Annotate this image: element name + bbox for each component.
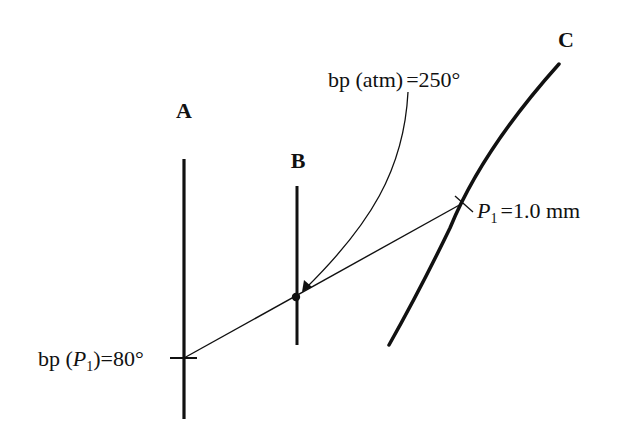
pointer-arrow-curve (305, 92, 408, 289)
bp-atm-label: bp (atm)=250° (328, 67, 460, 92)
scale-b: B (291, 148, 306, 345)
nomograph-diagram: A B C bp (atm)=250° P1=1.0 mm bp (P1)=80… (0, 0, 631, 445)
bp-p1-label: bp (P1)=80° (38, 346, 144, 374)
p1-pressure-label: P1=1.0 mm (476, 198, 580, 226)
pointer-arrow (302, 92, 408, 292)
scale-b-point-dot (292, 293, 300, 301)
scale-a: A (170, 98, 197, 419)
scale-c-label: C (558, 27, 574, 52)
isopleth-line (184, 203, 463, 358)
scale-b-label: B (291, 148, 306, 173)
scale-a-label: A (176, 98, 192, 123)
